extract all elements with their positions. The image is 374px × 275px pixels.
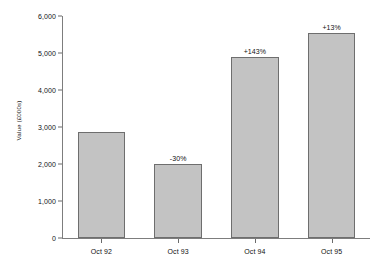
x-axis-category-label: Oct 93 [168, 248, 189, 255]
x-axis-tick-mark [332, 239, 333, 243]
x-axis-tick-marks [63, 239, 370, 244]
y-axis-tick-label: 2,000 [38, 161, 56, 168]
y-axis-tick-label: 5,000 [38, 50, 56, 57]
chart-screenshot: Value (£000s) 01,0002,0003,0004,0005,000… [0, 0, 374, 275]
bar-value-label: +143% [217, 48, 294, 55]
x-axis-tick-mark [101, 239, 102, 243]
x-axis-category-labels: Oct 92Oct 93Oct 94Oct 95 [63, 248, 370, 262]
y-axis-tick-label: 6,000 [38, 13, 56, 20]
x-axis-category-label: Oct 94 [244, 248, 265, 255]
bar-slot: +143% [217, 16, 294, 238]
bar-slot: -30% [140, 16, 217, 238]
y-axis-tick-label: 1,000 [38, 198, 56, 205]
x-axis-category-label: Oct 92 [91, 248, 112, 255]
bar[interactable] [231, 57, 279, 238]
bar-slot [63, 16, 140, 238]
bar-slot: +13% [293, 16, 370, 238]
y-axis-tick-label: 3,000 [38, 124, 56, 131]
x-axis-tick-mark [178, 239, 179, 243]
bar-value-label: +13% [293, 24, 370, 31]
bar[interactable] [154, 164, 202, 238]
y-axis-title-text: Value (£000s) [15, 100, 22, 140]
x-axis-category-label: Oct 95 [321, 248, 342, 255]
bar-value-label: -30% [140, 155, 217, 162]
plot-area: -30%+143%+13% [63, 16, 370, 238]
x-axis-tick-mark [255, 239, 256, 243]
y-axis-tick-label: 4,000 [38, 87, 56, 94]
bar[interactable] [308, 33, 356, 238]
y-axis-tick-label: 0 [52, 235, 56, 242]
y-axis-tick-labels: 01,0002,0003,0004,0005,0006,000 [26, 16, 62, 238]
bar[interactable] [78, 132, 126, 238]
